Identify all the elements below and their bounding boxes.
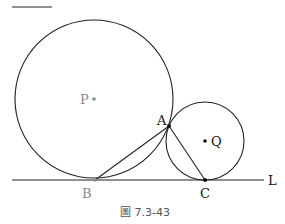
label-p: P: [80, 92, 89, 107]
label-q: Q: [211, 134, 222, 149]
label-b: B: [82, 186, 92, 201]
point-b: [93, 178, 97, 182]
point-p: [92, 97, 96, 101]
label-l: L: [268, 173, 277, 188]
point-a: [167, 124, 171, 128]
segment-ab: [95, 126, 169, 180]
label-a: A: [156, 113, 167, 128]
point-c: [203, 178, 207, 182]
geometry-figure: P Q A B C L 圖 7.3-43: [0, 0, 285, 224]
figure-caption: 圖 7.3-43: [120, 206, 170, 219]
label-c: C: [200, 186, 210, 201]
segment-ac: [169, 126, 205, 180]
point-q: [203, 139, 207, 143]
